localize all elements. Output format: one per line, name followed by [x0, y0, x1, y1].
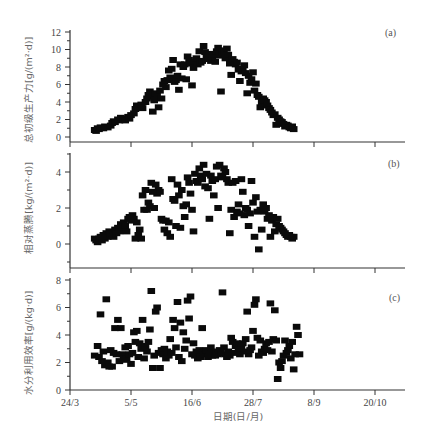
- data-point: [139, 192, 147, 198]
- panel-c-water-use-efficiency: 24/35/516/628/78/920/1002468: [56, 275, 405, 409]
- data-point: [290, 234, 298, 240]
- data-point: [258, 227, 266, 233]
- data-point: [168, 66, 176, 72]
- data-point: [169, 57, 177, 63]
- y-tick-label: 4: [56, 167, 61, 178]
- data-point: [171, 198, 179, 204]
- data-point: [155, 104, 163, 110]
- data-point: [249, 200, 257, 206]
- data-point: [133, 219, 141, 225]
- data-point: [223, 46, 231, 52]
- y-tick-label: 0: [56, 385, 61, 396]
- y-tick-label: 8: [56, 62, 61, 73]
- data-point: [187, 191, 195, 197]
- data-point: [268, 349, 276, 355]
- data-point: [169, 317, 177, 323]
- data-point: [235, 201, 243, 207]
- data-point: [200, 162, 208, 168]
- y-tick-label: 2: [56, 203, 61, 214]
- x-tick-label: 8/9: [308, 397, 321, 408]
- data-point: [233, 60, 241, 66]
- data-point: [251, 234, 259, 240]
- data-point: [185, 180, 193, 186]
- y-tick-label: 2: [56, 114, 61, 125]
- data-point: [211, 59, 219, 65]
- x-tick-label: 28/7: [244, 397, 262, 408]
- data-point: [175, 87, 183, 93]
- data-point: [262, 205, 270, 211]
- data-point: [217, 89, 225, 95]
- y-tick-label: 6: [56, 79, 61, 90]
- data-point: [103, 296, 111, 302]
- data-point: [178, 358, 186, 364]
- data-point: [146, 327, 154, 333]
- data-point: [156, 189, 164, 195]
- data-point: [271, 307, 279, 313]
- data-point: [188, 82, 196, 88]
- data-point: [108, 364, 116, 370]
- data-point: [139, 317, 147, 323]
- data-point: [248, 344, 256, 350]
- data-point: [180, 329, 188, 335]
- data-point: [190, 228, 198, 234]
- data-point: [255, 246, 263, 252]
- data-point: [251, 302, 259, 308]
- y-tick-label: 10: [51, 44, 61, 55]
- data-point: [158, 96, 166, 102]
- data-point: [148, 288, 156, 294]
- data-point: [274, 216, 282, 222]
- data-point: [293, 324, 301, 330]
- data-point: [257, 104, 265, 110]
- data-point: [124, 343, 132, 349]
- panel-b-tag: (b): [388, 158, 400, 170]
- data-point: [248, 178, 256, 184]
- data-point: [281, 338, 289, 344]
- y-tick-label: 8: [56, 275, 61, 286]
- data-point: [238, 176, 246, 182]
- data-point: [143, 349, 151, 355]
- data-point: [166, 234, 174, 240]
- data-point: [288, 339, 296, 345]
- data-point: [184, 174, 192, 180]
- data-point: [175, 192, 183, 198]
- data-point: [152, 182, 160, 188]
- panel-a-tag: (a): [385, 27, 396, 39]
- panel-b-ylabel: 相对蒸腾[kg/(m²·d)]: [23, 162, 34, 254]
- data-point: [277, 365, 285, 371]
- data-point: [239, 189, 247, 195]
- data-point: [290, 366, 298, 372]
- y-tick-label: 0: [56, 239, 61, 250]
- y-tick-label: 0: [56, 132, 61, 143]
- y-tick-label: 4: [56, 330, 61, 341]
- data-point: [171, 325, 179, 331]
- data-point: [210, 192, 218, 198]
- scatter-chart-figure: 024681012 024 24/35/516/628/78/920/10024…: [0, 0, 428, 446]
- data-point: [121, 223, 129, 229]
- data-point: [226, 230, 234, 236]
- data-point: [181, 214, 189, 220]
- data-point: [243, 90, 251, 96]
- data-point: [100, 349, 108, 355]
- data-point: [236, 78, 244, 84]
- panel-a-ylabel: 总初级生产力[g/(m²·d)]: [23, 37, 34, 143]
- data-point: [278, 358, 286, 364]
- data-point: [142, 187, 150, 193]
- data-point: [97, 311, 105, 317]
- data-point: [133, 328, 141, 334]
- data-point: [249, 328, 257, 334]
- y-tick-label: 4: [56, 97, 61, 108]
- data-point: [177, 320, 185, 326]
- data-point: [156, 365, 164, 371]
- x-tick-label: 16/6: [183, 397, 201, 408]
- data-point: [162, 84, 170, 90]
- data-point: [123, 228, 131, 234]
- data-point: [117, 325, 125, 331]
- data-point: [166, 336, 174, 342]
- data-point: [145, 339, 153, 345]
- data-point: [214, 205, 222, 211]
- x-axis-label: 日期(日/月): [213, 411, 264, 422]
- data-point: [252, 194, 260, 200]
- panel-b-transpiration: 024: [56, 153, 405, 273]
- x-tick-label: 5/5: [125, 397, 138, 408]
- y-tick-label: 12: [51, 27, 61, 38]
